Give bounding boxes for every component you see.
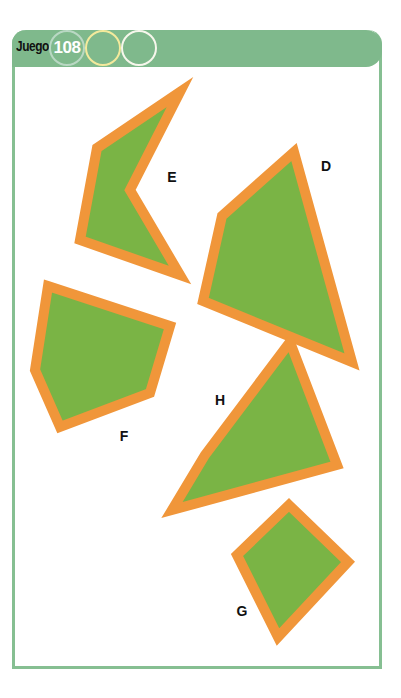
shape-f[interactable] bbox=[35, 286, 170, 427]
shapes-canvas bbox=[0, 0, 401, 698]
label-f: F bbox=[120, 428, 129, 444]
shape-g[interactable] bbox=[237, 505, 348, 637]
shape-d[interactable] bbox=[203, 152, 352, 362]
label-e: E bbox=[167, 169, 176, 185]
shape-e[interactable] bbox=[80, 92, 180, 275]
label-g: G bbox=[237, 603, 248, 619]
shape-h[interactable] bbox=[172, 342, 337, 510]
label-d: D bbox=[321, 158, 331, 174]
label-h: H bbox=[215, 392, 225, 408]
